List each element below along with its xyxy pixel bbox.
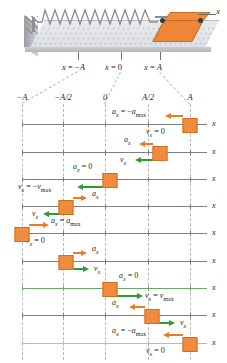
- panel-8: xaxvx: [0, 315, 227, 316]
- velocity-label: vx = 0: [146, 128, 165, 138]
- panel-3: xax = 0vx = −vmax: [0, 179, 227, 180]
- block-nub-right: [198, 18, 203, 23]
- acceleration-label: ax = amax: [51, 217, 81, 227]
- velocity-label: vx = 0: [146, 347, 165, 357]
- arrow-head: [137, 293, 143, 299]
- panel-tick-3: [148, 231, 149, 236]
- block: [145, 309, 160, 324]
- panel-tick-0: [22, 286, 23, 291]
- column-header-3: A/2: [142, 92, 154, 102]
- panel-axis-line: [22, 315, 207, 316]
- apparatus-tick-label-0: x = −A: [62, 62, 85, 72]
- panel-tick-3: [148, 204, 149, 209]
- panel-tick-0: [22, 122, 23, 127]
- panel-axis-label: x: [212, 173, 216, 183]
- panel-tick-0: [22, 341, 23, 346]
- panel-axis-line: [22, 343, 207, 344]
- arrow-head: [81, 195, 87, 201]
- panel-tick-1: [63, 177, 64, 182]
- arrow-shaft: [73, 197, 81, 199]
- block: [59, 255, 74, 270]
- panel-tick-1: [63, 122, 64, 127]
- column-header-4: A: [187, 92, 192, 102]
- panel-tick-3: [148, 259, 149, 264]
- arrow-head: [169, 320, 175, 326]
- panel-tick-2: [105, 122, 106, 127]
- arrow-shaft: [117, 295, 137, 297]
- arrow-shaft: [73, 252, 81, 254]
- panel-tick-1: [63, 341, 64, 346]
- panel-axis-line: [22, 152, 207, 153]
- block-3d: [158, 12, 204, 38]
- block: [183, 337, 198, 352]
- panel-tick-1: [63, 313, 64, 318]
- wall-anchor: [32, 17, 35, 32]
- acceleration-label: ax: [124, 136, 131, 146]
- acceleration-label: ax: [112, 299, 119, 309]
- panel-tick-1: [63, 150, 64, 155]
- panel-axis-label: x: [212, 227, 216, 237]
- arrow-head: [81, 250, 87, 256]
- arrow-head: [43, 222, 49, 228]
- apparatus-illustration: x: [0, 0, 227, 88]
- acceleration-label: ax: [92, 245, 99, 255]
- arrow-shaft: [169, 334, 183, 336]
- panel-tick-2: [105, 150, 106, 155]
- spring-icon: [38, 6, 158, 28]
- panel-tick-1: [63, 231, 64, 236]
- velocity-label: vx = −vmax: [18, 183, 51, 193]
- panel-axis-label: x: [212, 282, 216, 292]
- column-header-1: −A/2: [54, 92, 72, 102]
- apparatus-tick-mark: [78, 52, 79, 60]
- acceleration-label: ax = −amax: [112, 108, 146, 118]
- arrow-head: [163, 332, 169, 338]
- panel-tick-4: [190, 231, 191, 236]
- panel-axis-label: x: [212, 200, 216, 210]
- arrow-shaft: [141, 159, 153, 161]
- apparatus-tick-mark: [121, 52, 122, 60]
- block: [103, 282, 118, 297]
- panel-axis-label: x: [212, 146, 216, 156]
- arrow-shaft: [135, 306, 145, 308]
- panel-axis-label: x: [212, 118, 216, 128]
- arrow-head: [83, 266, 89, 272]
- panel-6: xaxvx: [0, 261, 227, 262]
- acceleration-label: ax = −amax: [112, 327, 146, 337]
- panel-tick-4: [190, 313, 191, 318]
- block: [59, 200, 74, 215]
- panel-5: xax = amaxvx = 0: [0, 233, 227, 234]
- panel-axis-line: [22, 206, 207, 207]
- panel-axis-label: x: [212, 337, 216, 347]
- panel-1: xax = −amaxvx = 0: [0, 124, 227, 125]
- panel-axis-line: [22, 124, 207, 125]
- arrow-shaft: [49, 213, 59, 215]
- panel-7: xax = 0vx = vmax: [0, 288, 227, 289]
- block: [183, 118, 198, 133]
- block-nub-left: [160, 18, 165, 23]
- apparatus-axis-label: x: [216, 6, 220, 16]
- velocity-label: vx: [180, 319, 186, 329]
- apparatus-tick-mark: [160, 52, 161, 60]
- column-header-0: −A: [17, 92, 28, 102]
- velocity-label: vx: [94, 265, 100, 275]
- panel-4: xaxvx: [0, 206, 227, 207]
- arrow-shaft: [83, 186, 103, 188]
- panel-tick-4: [190, 259, 191, 264]
- arrow-head: [135, 157, 141, 163]
- arrow-head: [129, 304, 135, 310]
- panel-tick-4: [190, 150, 191, 155]
- figure-root: x x = −Ax = 0x = A −A−A/20A/2A xax = −am…: [0, 0, 227, 363]
- panel-tick-2: [105, 341, 106, 346]
- velocity-label: vx = vmax: [145, 292, 174, 302]
- panel-tick-1: [63, 286, 64, 291]
- velocity-label: vx: [120, 156, 126, 166]
- panel-tick-2: [105, 204, 106, 209]
- panel-tick-3: [148, 177, 149, 182]
- arrow-shaft: [159, 322, 169, 324]
- panel-axis-line: [22, 261, 207, 262]
- panel-tick-4: [190, 204, 191, 209]
- arrow-head: [43, 211, 49, 217]
- table-front-rail: [25, 47, 211, 52]
- panel-tick-2: [105, 313, 106, 318]
- acceleration-label: ax = 0: [73, 163, 92, 173]
